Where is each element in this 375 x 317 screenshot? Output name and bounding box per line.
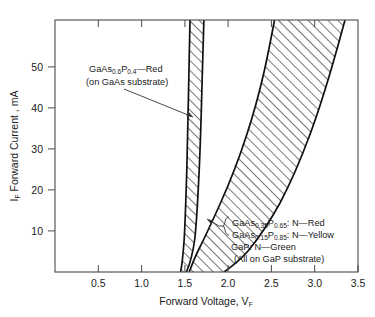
annotation-right-line-4: (All on GaP substrate): [234, 254, 324, 264]
annotation-left-line-1: GaAs0.6P0.4—Red: [89, 64, 163, 75]
y-axis-ticks: [48, 67, 55, 231]
x-tick-label-2: 1.5: [178, 277, 193, 289]
y-tick-label-0: 10: [31, 225, 43, 237]
x-tick-label-0: 0.5: [91, 277, 106, 289]
y-tick-label-1: 20: [31, 184, 43, 196]
x-tick-label-3: 2.0: [221, 277, 236, 289]
y-tick-label-3: 40: [31, 102, 43, 114]
x-tick-label-6: 3.5: [351, 277, 366, 289]
annotation-right-line-3: GaP: N—Green: [231, 242, 296, 252]
annotation-left-line-2: (on GaAs substrate): [86, 77, 168, 87]
x-tick-label-4: 2.5: [264, 277, 279, 289]
x-tick-label-5: 3.0: [307, 277, 322, 289]
x-tick-label-1: 1.0: [134, 277, 149, 289]
forward-voltage-current-chart: 0.5 1.0 1.5 2.0 2.5 3.0 3.5 10 20 30 40 …: [0, 0, 375, 317]
y-axis-title: IF Forward Current , mA: [8, 91, 21, 202]
x-axis-title: Forward Voltage, VF: [159, 295, 252, 308]
y-tick-label-2: 30: [31, 143, 43, 155]
chart-page: 0.5 1.0 1.5 2.0 2.5 3.0 3.5 10 20 30 40 …: [0, 0, 375, 317]
y-tick-label-4: 50: [31, 61, 43, 73]
